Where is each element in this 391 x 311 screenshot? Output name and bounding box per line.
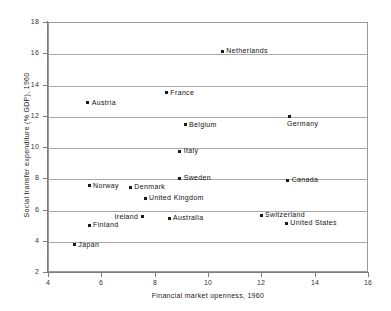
y-axis-tick	[43, 241, 48, 242]
x-axis-tick-label: 10	[193, 279, 223, 287]
x-axis-tick	[368, 273, 369, 277]
y-axis-tick-label: 16	[0, 49, 39, 56]
data-point-label: Austria	[92, 99, 116, 107]
data-point-marker	[178, 177, 181, 180]
x-axis-tick-label: 4	[33, 279, 63, 287]
data-point-marker	[129, 186, 132, 189]
x-axis-tick-label: 8	[140, 279, 170, 287]
data-point-marker	[221, 50, 224, 53]
y-axis-tick	[43, 210, 48, 211]
x-axis-tick-label: 14	[300, 279, 330, 287]
x-axis-tick	[208, 273, 209, 277]
y-axis-tick-label: 12	[0, 112, 39, 119]
data-point-label: Denmark	[134, 183, 165, 191]
data-point-marker	[285, 222, 288, 225]
y-axis-tick-label: 4	[0, 237, 39, 244]
data-point-marker	[288, 115, 291, 118]
gridline	[49, 117, 367, 118]
data-point-marker	[165, 91, 168, 94]
data-point-label: Ireland	[114, 213, 142, 221]
data-point-label: France	[170, 89, 194, 97]
y-axis-tick-label: 8	[0, 174, 39, 181]
data-point-marker	[73, 243, 76, 246]
data-point-label: Finland	[93, 221, 118, 229]
gridline	[49, 54, 367, 55]
y-axis-tick	[43, 116, 48, 117]
x-axis-tick-label: 12	[246, 279, 276, 287]
y-axis-tick-label: 6	[0, 206, 39, 213]
gridline	[49, 148, 367, 149]
data-point-marker	[184, 123, 187, 126]
data-point-marker	[168, 217, 171, 220]
y-axis-tick-label: 18	[0, 18, 39, 25]
data-point-label: United Kingdom	[149, 194, 204, 202]
gridline	[49, 86, 367, 87]
y-axis-tick	[43, 22, 48, 23]
data-point-label: United States	[290, 219, 337, 227]
y-axis-tick	[43, 53, 48, 54]
x-axis-tick	[101, 273, 102, 277]
y-axis-tick-label: 2	[0, 268, 39, 275]
x-axis-tick-label: 16	[353, 279, 383, 287]
data-point-label: Japan	[78, 241, 99, 249]
data-point-label: Sweden	[184, 174, 211, 182]
data-point-label: Netherlands	[226, 47, 268, 55]
data-point-marker	[178, 150, 181, 153]
y-axis-tick	[43, 85, 48, 86]
y-axis-tick-label: 10	[0, 143, 39, 150]
y-axis-tick	[43, 178, 48, 179]
data-point-label: Switzerland	[265, 211, 305, 219]
data-point-label: Belgium	[189, 121, 217, 129]
data-point-marker	[260, 214, 263, 217]
data-point-marker	[86, 101, 89, 104]
data-point-label: Australia	[173, 214, 203, 222]
scatter-chart: NetherlandsFranceAustriaGermanyBelgiumIt…	[0, 0, 391, 311]
data-point-marker	[286, 179, 289, 182]
data-point-label: Canada	[292, 176, 319, 184]
gridline	[49, 211, 367, 212]
plot-area: NetherlandsFranceAustriaGermanyBelgiumIt…	[48, 22, 368, 272]
y-axis-tick-label: 14	[0, 81, 39, 88]
x-axis-tick	[261, 273, 262, 277]
data-point-marker	[144, 197, 147, 200]
x-axis-tick	[48, 273, 49, 277]
data-point-label: Italy	[184, 147, 199, 155]
x-axis-tick	[315, 273, 316, 277]
y-axis-tick	[43, 147, 48, 148]
x-axis-title: Financial market openness, 1960	[48, 292, 368, 300]
x-axis-tick	[155, 273, 156, 277]
y-axis-title: Social transfer expenditure (% GDP), 196…	[23, 20, 31, 270]
data-point-label: Norway	[93, 182, 119, 190]
data-point-label: Germany	[287, 120, 318, 128]
x-axis-tick-label: 6	[86, 279, 116, 287]
data-point-marker	[88, 224, 91, 227]
data-point-marker	[88, 184, 91, 187]
